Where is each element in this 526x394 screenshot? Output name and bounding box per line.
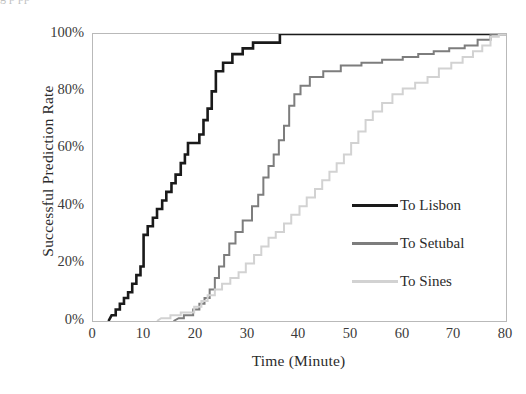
y-tick-label-40: 40%: [14, 196, 84, 213]
legend-label-to-setubal: To Setubal: [400, 235, 464, 252]
x-tick-label-20: 20: [175, 325, 215, 342]
page-cut-artifact: g p pp: [0, 0, 526, 10]
legend-swatch-to-setubal: [352, 242, 398, 245]
legend-swatch-to-lisbon: [352, 204, 398, 207]
chart-legend: To Lisbon To Setubal To Sines: [352, 186, 502, 300]
x-axis-title: Time (Minute): [92, 352, 505, 370]
x-tick-label-30: 30: [227, 325, 267, 342]
y-tick-label-100: 100%: [14, 24, 84, 41]
legend-label-to-lisbon: To Lisbon: [400, 197, 461, 214]
figure-cdf-prediction-rate: g p pp Successful Prediction Rate Time (…: [0, 0, 526, 394]
x-tick-label-0: 0: [72, 325, 112, 342]
cut-text: g p pp: [0, 0, 30, 2]
y-tick-label-80: 80%: [14, 81, 84, 98]
legend-item-to-setubal: To Setubal: [352, 224, 502, 262]
x-tick-label-10: 10: [123, 325, 163, 342]
legend-item-to-lisbon: To Lisbon: [352, 186, 502, 224]
legend-label-to-sines: To Sines: [400, 273, 452, 290]
legend-swatch-to-sines: [352, 280, 398, 283]
x-tick-label-40: 40: [278, 325, 318, 342]
x-tick-label-60: 60: [382, 325, 422, 342]
y-tick-label-60: 60%: [14, 138, 84, 155]
y-tick-label-20: 20%: [14, 253, 84, 270]
legend-item-to-sines: To Sines: [352, 262, 502, 300]
x-tick-label-70: 70: [433, 325, 473, 342]
x-tick-label-80: 80: [485, 325, 525, 342]
x-tick-label-50: 50: [330, 325, 370, 342]
